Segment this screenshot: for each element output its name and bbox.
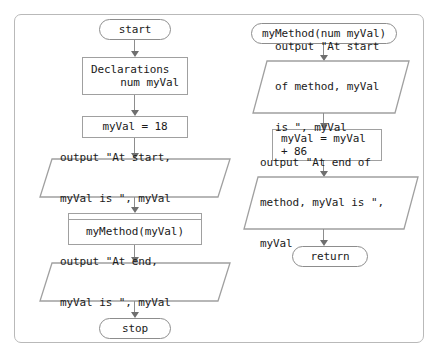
start-terminator: start <box>99 19 171 40</box>
output-end-io: output "At end, myVal is ", myVal <box>40 263 230 301</box>
method-output-start-line-2: of method, myVal <box>275 80 399 94</box>
output-start-io: output "At start, myVal is ", myVal <box>40 159 230 197</box>
output-end-line-2: myVal is ", myVal <box>60 296 220 310</box>
output-end-line-1: output "At end, <box>60 255 220 269</box>
method-output-end-line-3: myVal <box>260 237 408 251</box>
declarations-line-1: Declarations <box>91 63 179 77</box>
method-output-end-line-2: method, myVal is ", <box>260 196 408 210</box>
flowchart-page: start Declarations num myVal myVal = 18 … <box>0 0 438 357</box>
method-output-end-io: output "At end of method, myVal is ", my… <box>244 177 418 229</box>
declarations-process: Declarations num myVal <box>82 57 188 95</box>
method-output-start-line-1: output "At start <box>275 40 399 54</box>
connector-start-to-declarations <box>130 40 139 57</box>
start-label: start <box>119 23 152 37</box>
method-output-end-line-1: output "At end of <box>260 156 408 170</box>
output-start-line-1: output "At start, <box>60 151 220 165</box>
method-output-start-io: output "At start of method, myVal is ", … <box>253 61 409 113</box>
declarations-line-2: num myVal <box>91 76 179 90</box>
connector-declarations-to-assign <box>130 95 139 116</box>
output-start-line-2: myVal is ", myVal <box>60 192 220 206</box>
